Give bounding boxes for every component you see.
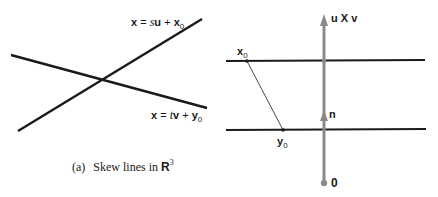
skew-lines-figure: x = su + x0 x = tv + y0 (a)Skew lines in…	[0, 0, 438, 197]
figure-b-distance: u X v n 0 x0 y0	[226, 12, 426, 190]
label-u-cross-v: u X v	[331, 12, 358, 24]
arrowhead-n-icon	[320, 110, 328, 121]
bottom-line-through-y0	[226, 129, 426, 130]
origin-dot	[321, 180, 327, 186]
figure-a-skew-lines: x = su + x0 x = tv + y0 (a)Skew lines in…	[11, 15, 207, 174]
line1-label: x = su + x0	[131, 15, 185, 31]
segment-x0-y0	[247, 61, 283, 130]
point-y0-dot	[281, 128, 285, 132]
arrowhead-u-cross-v-icon	[320, 14, 328, 26]
label-x0: x0	[237, 45, 248, 60]
label-n: n	[329, 108, 336, 120]
figure-a-caption: (a)Skew lines in R3	[72, 158, 174, 174]
label-origin: 0	[331, 176, 338, 190]
line-tv-plus-y0	[11, 55, 207, 108]
label-y0: y0	[277, 135, 288, 150]
line2-label: x = tv + y0	[151, 108, 203, 124]
